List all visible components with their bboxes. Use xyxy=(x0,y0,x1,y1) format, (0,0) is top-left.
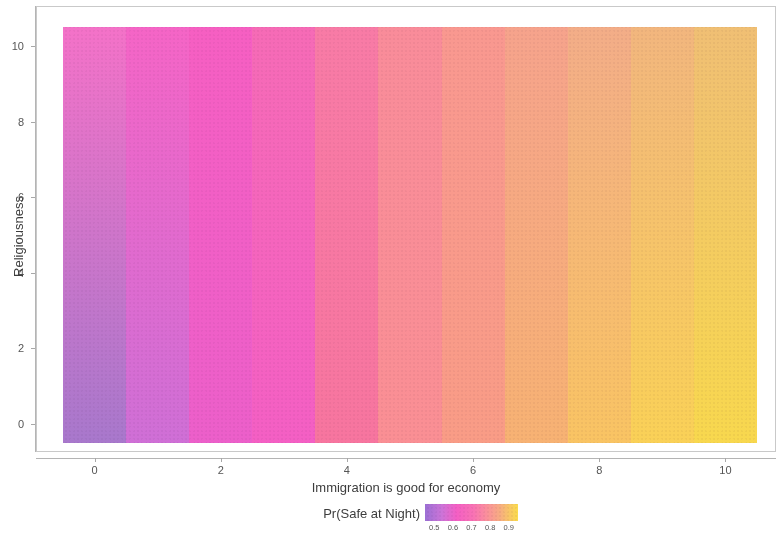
heatmap-column xyxy=(126,27,190,443)
legend-tick-label: 0.8 xyxy=(485,523,495,532)
heatmap-figure: 0246810 0246810 Immigration is good for … xyxy=(0,0,782,534)
y-axis-tick xyxy=(31,348,35,349)
x-axis-tick-label: 2 xyxy=(218,464,224,476)
x-axis-tick-label: 6 xyxy=(470,464,476,476)
heatmap-raster xyxy=(63,27,757,443)
x-axis-tick-label: 8 xyxy=(596,464,602,476)
heatmap-column xyxy=(442,27,506,443)
heatmap-column xyxy=(568,27,632,443)
x-axis-tick xyxy=(725,458,726,462)
x-axis-title: Immigration is good for economy xyxy=(36,480,776,495)
legend-title: Pr(Safe at Night) xyxy=(310,506,420,521)
legend-inner: Pr(Safe at Night) 0.50.60.70.80.9 xyxy=(310,502,525,534)
y-axis-tick xyxy=(31,424,35,425)
x-axis-tick-label: 0 xyxy=(91,464,97,476)
x-axis-tick xyxy=(347,458,348,462)
x-axis-tick-label: 10 xyxy=(719,464,731,476)
y-axis-tick xyxy=(31,122,35,123)
y-axis-title: Religiousness xyxy=(11,127,26,347)
heatmap-column xyxy=(315,27,379,443)
x-axis-line xyxy=(36,458,776,459)
legend-colorbar-gradient xyxy=(425,504,518,521)
legend: Pr(Safe at Night) 0.50.60.70.80.9 xyxy=(0,502,782,534)
heatmap-column xyxy=(252,27,316,443)
legend-tick-label: 0.7 xyxy=(466,523,476,532)
heatmap-column xyxy=(63,27,127,443)
heatmap-column xyxy=(694,27,757,443)
y-axis-tick-label: 0 xyxy=(18,418,24,430)
x-axis-tick xyxy=(221,458,222,462)
legend-colorbar xyxy=(425,504,518,521)
heatmap-column xyxy=(631,27,695,443)
x-axis-tick xyxy=(599,458,600,462)
heatmap-column xyxy=(378,27,442,443)
legend-tick-label: 0.9 xyxy=(503,523,513,532)
heatmap-column xyxy=(189,27,253,443)
x-axis-tick xyxy=(95,458,96,462)
legend-tick-label: 0.6 xyxy=(448,523,458,532)
y-axis-line xyxy=(35,6,36,452)
x-axis-tick xyxy=(473,458,474,462)
y-axis-tick xyxy=(31,273,35,274)
legend-tick-labels: 0.50.60.70.80.9 xyxy=(425,523,518,534)
heatmap-column xyxy=(505,27,569,443)
y-axis-tick xyxy=(31,197,35,198)
y-axis-tick xyxy=(31,46,35,47)
y-axis-tick-label: 10 xyxy=(12,40,24,52)
legend-tick-label: 0.5 xyxy=(429,523,439,532)
x-axis-tick-label: 4 xyxy=(344,464,350,476)
